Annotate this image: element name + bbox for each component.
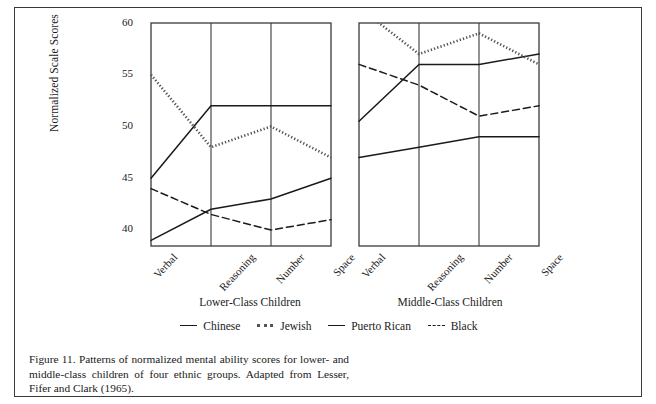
y-tick-40: 40 xyxy=(107,222,133,234)
y-axis-title: Normalized Scale Scores xyxy=(48,0,66,161)
panel-title-lower-class: Lower-Class Children xyxy=(160,296,340,308)
legend-label-chinese: Chinese xyxy=(203,320,240,332)
chart-plot-region: Normalized Scale Scores 60 55 50 45 40 V… xyxy=(15,8,643,348)
panel-title-middle-class: Middle-Class Children xyxy=(360,296,540,308)
line-solid-icon xyxy=(180,322,197,330)
series-line-puerto-rican xyxy=(359,137,539,158)
series-line-jewish xyxy=(359,8,539,64)
line-solid-icon xyxy=(328,322,345,330)
chart-legend: Chinese Jewish Puerto Rican Black xyxy=(15,318,643,332)
legend-item-jewish: Jewish xyxy=(257,319,311,332)
legend-label-black: Black xyxy=(451,320,478,332)
y-tick-45: 45 xyxy=(107,171,133,183)
series-line-black xyxy=(359,64,539,116)
legend-item-puerto-rican: Puerto Rican xyxy=(328,319,411,332)
series-line-chinese xyxy=(151,106,331,178)
legend-label-puerto-rican: Puerto Rican xyxy=(351,320,411,332)
figure-frame: Normalized Scale Scores 60 55 50 45 40 V… xyxy=(14,7,642,397)
line-dashed-icon xyxy=(428,322,445,330)
y-tick-55: 55 xyxy=(107,67,133,79)
y-tick-60: 60 xyxy=(107,16,133,28)
legend-label-jewish: Jewish xyxy=(280,320,311,332)
series-line-puerto-rican xyxy=(151,178,331,240)
line-dotted-icon xyxy=(257,322,274,330)
legend-item-chinese: Chinese xyxy=(180,319,240,332)
legend-item-black: Black xyxy=(428,319,478,332)
series-line-chinese xyxy=(359,54,539,121)
figure-caption: Figure 11. Patterns of normalized mental… xyxy=(29,352,349,396)
y-tick-50: 50 xyxy=(107,119,133,131)
series-line-black xyxy=(151,189,331,230)
